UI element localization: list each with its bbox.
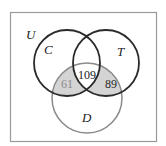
region-c-t-d-value: 109 [78, 68, 96, 82]
region-t-d-value: 89 [105, 77, 117, 91]
set-t-label: T [117, 44, 125, 59]
universe-label: U [26, 27, 37, 42]
set-c-label: C [44, 42, 53, 57]
set-d-label: D [81, 110, 92, 125]
venn-diagram: U C T D 109 61 89 [0, 0, 166, 146]
region-c-d-value: 61 [61, 77, 73, 91]
